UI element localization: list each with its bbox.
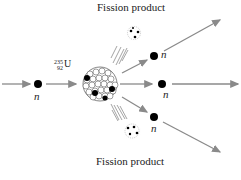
upper-neutron-label: n <box>161 48 167 60</box>
motion-lines-bottom <box>111 104 127 121</box>
incoming-neutron <box>34 80 42 88</box>
middle-neutron-label: n <box>163 88 169 100</box>
outgoing-neutron-lower <box>150 113 158 121</box>
fission-product-top <box>125 24 143 42</box>
outgoing-neutron-upper <box>150 52 158 60</box>
incoming-neutron-label: n <box>34 90 40 102</box>
fission-product-bottom <box>122 121 142 141</box>
atomic-number: 92 <box>57 65 63 71</box>
nucleus-to-lower-neutron-arrow <box>122 97 147 112</box>
outgoing-neutron-middle <box>158 80 166 88</box>
nucleus-to-upper-neutron-arrow <box>122 60 147 73</box>
upper-neutron-arrow <box>164 20 220 51</box>
uranium-isotope-label: 23592U <box>54 58 71 71</box>
uranium-nucleus <box>83 67 118 101</box>
lower-neutron-label: n <box>151 122 157 134</box>
bottom-fission-product-label: Fission product <box>96 155 164 167</box>
element-symbol: U <box>64 58 71 69</box>
top-fission-product-label: Fission product <box>97 1 165 13</box>
motion-lines-top <box>111 46 128 65</box>
lower-neutron-arrow <box>163 122 220 152</box>
